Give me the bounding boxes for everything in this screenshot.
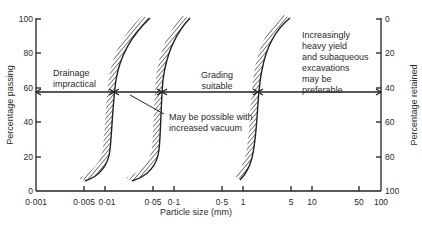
x-tick-10: 10 — [307, 197, 316, 207]
annotation-drainage-impractical: Drainage impractical — [53, 68, 96, 90]
x-tick-1: 1 — [241, 197, 246, 207]
curve-a — [85, 18, 150, 181]
annotation-line: Grading — [201, 70, 233, 81]
annotation-line: preferable — [302, 85, 369, 96]
annotation-line: heavy yield — [302, 41, 369, 52]
annotation-heavy-yield: Increasingly heavy yield and subaqueous … — [302, 30, 369, 96]
x-tick-0.05: 0·05 — [144, 197, 161, 207]
x-tick-0.1: 0·1 — [168, 197, 180, 207]
curve-b — [132, 18, 190, 181]
x-tick-0.5: 0·5 — [216, 197, 228, 207]
curve-c-hatch — [235, 14, 290, 180]
annotation-line: and subaqueous — [302, 52, 369, 63]
annotation-grading-suitable: Grading suitable — [201, 70, 233, 92]
x-tick-50: 50 — [354, 197, 363, 207]
annotation-vacuum: May be possible with increased vacuum — [169, 112, 253, 134]
annotation-line: impractical — [53, 79, 96, 90]
y-right-tick-0: 0 — [385, 14, 390, 24]
annotation-line: may be — [302, 74, 369, 85]
y-right-tick-60: 60 — [385, 117, 394, 127]
y-left-tick-80: 80 — [0, 48, 33, 58]
y-right-tick-80: 80 — [385, 152, 394, 162]
x-tick-100: 100 — [374, 197, 388, 207]
annotation-line: May be possible with — [169, 112, 253, 123]
y-left-tick-100: 100 — [0, 14, 33, 24]
annotation-line: excavations — [302, 63, 369, 74]
y-left-axis-title: Percentage passing — [5, 65, 15, 145]
y-right-tick-40: 40 — [385, 83, 394, 93]
annotation-line: increased vacuum — [169, 123, 253, 134]
x-tick-5: 5 — [289, 197, 294, 207]
y-left-tick-0: 0 — [0, 186, 33, 196]
x-tick-0.005: 0·005 — [73, 197, 95, 207]
x-tick-0.001: 0·001 — [25, 197, 47, 207]
x-tick-0.01: 0·01 — [98, 197, 115, 207]
y-right-tick-100: 100 — [385, 186, 399, 196]
annotation-line: suitable — [201, 81, 233, 92]
annotation-line: Drainage — [53, 68, 96, 79]
y-right-axis-title: Percentage retained — [409, 64, 419, 145]
boundary-curves — [85, 18, 290, 181]
y-right-tick-20: 20 — [385, 48, 394, 58]
annotation-line: Increasingly — [302, 30, 369, 41]
y-left-tick-20: 20 — [0, 152, 33, 162]
x-axis-title: Particle size (mm) — [160, 207, 232, 218]
